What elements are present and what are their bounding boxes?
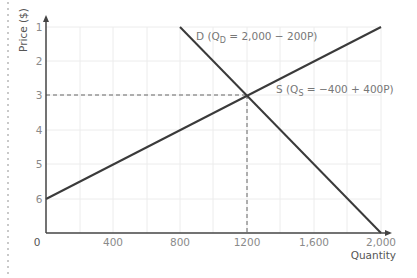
svg-text:1: 1 xyxy=(36,21,43,33)
svg-text:800: 800 xyxy=(170,236,190,248)
svg-text:1200: 1200 xyxy=(234,236,261,248)
svg-text:2,000: 2,000 xyxy=(366,236,396,248)
svg-text:1,600: 1,600 xyxy=(299,236,329,248)
demand-annotation: D (QD = 2,000 − 200P) xyxy=(196,30,317,45)
grid xyxy=(46,27,381,233)
supply-demand-chart: 1 2 3 4 5 6 0 400 800 1200 1,600 2,000 Q… xyxy=(0,0,417,278)
x-tick-labels: 0 400 800 1200 1,600 2,000 xyxy=(34,236,396,248)
y-axis-label: Price ($) xyxy=(17,8,29,52)
y-tick-labels: 1 2 3 4 5 6 xyxy=(36,21,43,205)
svg-text:5: 5 xyxy=(36,158,43,170)
svg-text:0: 0 xyxy=(34,236,41,248)
svg-text:2: 2 xyxy=(36,55,43,67)
svg-text:4: 4 xyxy=(36,124,43,136)
svg-text:6: 6 xyxy=(36,193,43,205)
svg-text:400: 400 xyxy=(103,236,123,248)
x-axis-label: Quantity xyxy=(351,249,396,261)
supply-annotation: S (QS = −400 + 400P) xyxy=(276,83,394,98)
svg-text:3: 3 xyxy=(36,89,43,101)
